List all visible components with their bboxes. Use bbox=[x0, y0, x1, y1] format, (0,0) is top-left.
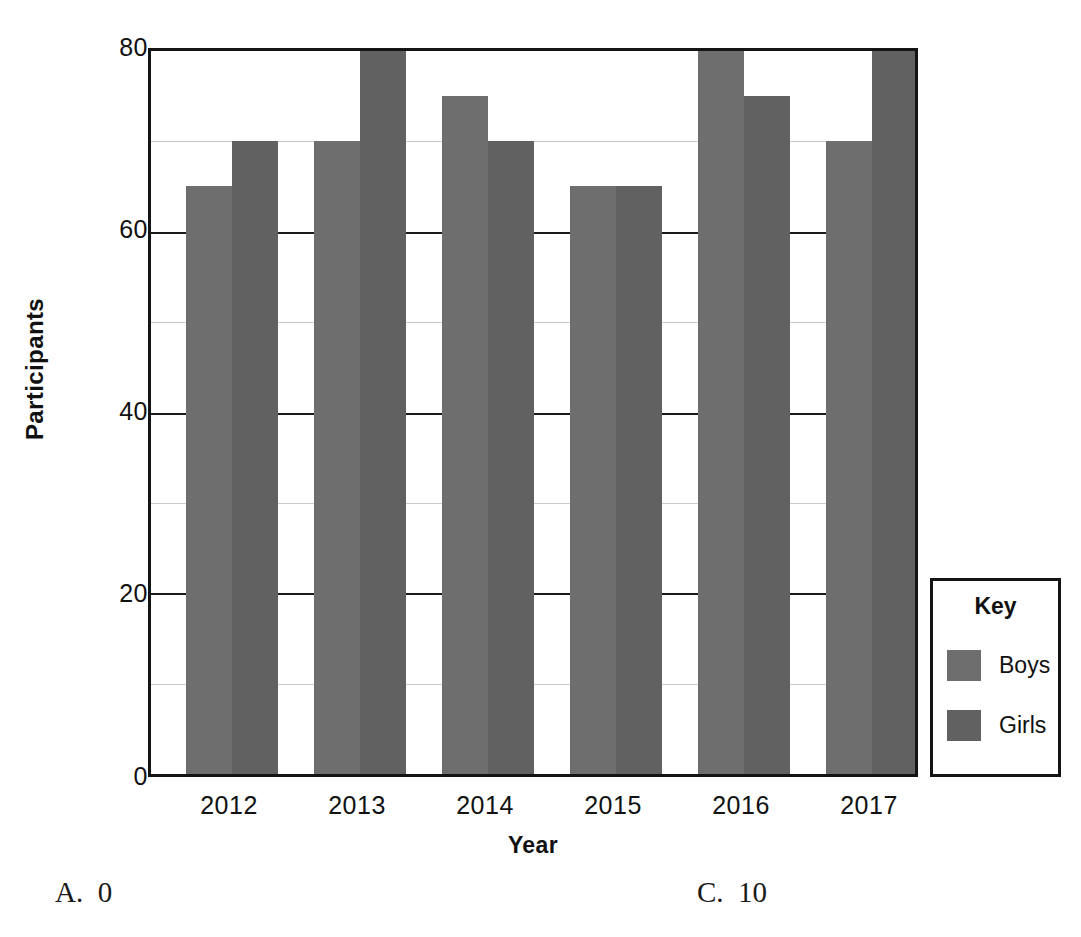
y-tick-40: 40 bbox=[78, 399, 148, 424]
legend-label-boys: Boys bbox=[999, 654, 1050, 677]
legend-entry-girls: Girls bbox=[947, 707, 1053, 743]
x-tick-2013: 2013 bbox=[297, 790, 417, 820]
legend-label-girls: Girls bbox=[999, 714, 1046, 737]
answer-option-a[interactable]: A. 0 bbox=[55, 872, 112, 912]
x-axis-title: Year bbox=[148, 832, 918, 859]
y-axis-title: Participants bbox=[21, 259, 49, 479]
bar-2017-girls bbox=[872, 51, 915, 774]
bar-2016-boys bbox=[698, 51, 744, 774]
y-tick-80: 80 bbox=[78, 35, 148, 60]
answer-option-c[interactable]: C. 10 bbox=[697, 872, 767, 912]
x-axis-ticks: 2012 2013 2014 2015 2016 2017 bbox=[148, 790, 918, 826]
x-tick-2016: 2016 bbox=[681, 790, 801, 820]
bar-2013-girls bbox=[360, 51, 406, 774]
bar-2017-boys bbox=[826, 141, 872, 774]
x-tick-2014: 2014 bbox=[425, 790, 545, 820]
y-tick-60: 60 bbox=[78, 217, 148, 242]
bar-2013-boys bbox=[314, 141, 360, 774]
bar-chart-figure: 80 60 40 20 0 Participants bbox=[0, 0, 1081, 870]
y-tick-20: 20 bbox=[78, 581, 148, 606]
legend-entry-boys: Boys bbox=[947, 647, 1053, 683]
bar-2014-girls bbox=[488, 141, 534, 774]
x-tick-2017: 2017 bbox=[809, 790, 929, 820]
bar-2014-boys bbox=[442, 96, 488, 774]
x-tick-2015: 2015 bbox=[553, 790, 673, 820]
y-tick-0: 0 bbox=[78, 764, 148, 789]
legend-title: Key bbox=[933, 593, 1058, 620]
legend-box: Key Boys Girls bbox=[930, 578, 1061, 777]
bar-2015-girls bbox=[616, 186, 662, 774]
bar-2012-girls bbox=[232, 141, 278, 774]
bar-2015-boys bbox=[570, 186, 616, 774]
legend-swatch-girls-icon bbox=[947, 710, 981, 741]
plot-inner bbox=[151, 51, 915, 774]
bar-2016-girls bbox=[744, 96, 790, 774]
answer-options: A. 0 C. 10 bbox=[0, 872, 1081, 937]
legend-swatch-boys-icon bbox=[947, 650, 981, 681]
plot-area bbox=[148, 48, 918, 777]
bar-2012-boys bbox=[186, 186, 232, 774]
x-tick-2012: 2012 bbox=[169, 790, 289, 820]
